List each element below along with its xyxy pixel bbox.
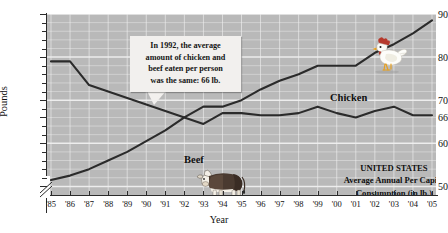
y-tick	[42, 40, 47, 41]
x-axis-line	[46, 195, 438, 196]
x-tick	[184, 191, 185, 195]
x-tick-label: '90	[141, 199, 151, 209]
x-tick	[89, 191, 90, 195]
y-tick	[42, 23, 47, 24]
x-tick-label: '86	[65, 199, 75, 209]
y-tick	[42, 49, 47, 50]
x-tick-label: '98	[294, 199, 304, 209]
x-tick	[432, 191, 433, 195]
x-tick-label: '89	[122, 199, 132, 209]
y-tick-label: 66	[404, 112, 448, 123]
x-axis-title: Year	[210, 214, 228, 225]
x-tick-label: '92	[179, 199, 189, 209]
x-tick	[108, 191, 109, 195]
y-tick	[42, 31, 47, 32]
x-tick	[203, 191, 204, 195]
y-tick	[42, 135, 47, 136]
y-tick	[40, 143, 47, 144]
chicken-illustration	[365, 34, 409, 74]
x-tick	[356, 191, 357, 195]
chart-figure: Chicken Beef UNITED STATES Average Annua…	[0, 0, 448, 233]
y-tick	[40, 117, 47, 118]
series-label-chicken: Chicken	[330, 92, 367, 103]
x-tick-label: '88	[103, 199, 113, 209]
x-tick	[261, 191, 262, 195]
y-tick	[42, 152, 47, 153]
x-tick	[375, 191, 376, 195]
y-tick	[40, 14, 47, 15]
callout-box: In 1992, the average amount of chicken a…	[130, 36, 241, 92]
x-tick-label: '96	[256, 199, 266, 209]
y-tick-label: 50	[404, 181, 448, 192]
x-tick-label: '00	[332, 199, 342, 209]
y-tick	[42, 66, 47, 67]
x-tick-label: '04	[408, 199, 418, 209]
series-label-beef: Beef	[184, 154, 204, 165]
callout-line-4: was the same: 66 lb.	[134, 75, 237, 87]
x-tick-label: '03	[389, 199, 399, 209]
y-tick	[42, 178, 47, 179]
callout-line-3: beef eaten per person	[134, 63, 237, 75]
x-tick	[242, 191, 243, 195]
x-tick	[70, 191, 71, 195]
plot-area: Chicken Beef UNITED STATES Average Annua…	[47, 14, 436, 195]
callout-line-1: In 1992, the average	[134, 40, 237, 52]
x-tick	[337, 191, 338, 195]
y-tick	[40, 57, 47, 58]
y-tick	[42, 83, 47, 84]
y-tick	[42, 169, 47, 170]
x-tick	[223, 191, 224, 195]
callout-pointer	[147, 91, 166, 105]
x-tick	[413, 191, 414, 195]
source-line-1: UNITED STATES	[319, 162, 436, 174]
y-axis-title: Pounds	[0, 86, 9, 117]
y-tick	[42, 92, 47, 93]
x-tick-label: '02	[370, 199, 380, 209]
x-tick	[394, 191, 395, 195]
x-tick-label: '91	[160, 199, 170, 209]
x-tick-label: '05	[427, 199, 437, 209]
y-tick	[42, 74, 47, 75]
x-tick-label: '95	[236, 199, 246, 209]
y-tick-label: 80	[404, 52, 448, 63]
x-tick-label: '87	[84, 199, 94, 209]
y-tick	[42, 161, 47, 162]
x-tick	[146, 191, 147, 195]
y-tick	[42, 109, 47, 110]
x-tick	[299, 191, 300, 195]
callout-line-2: amount of chicken and	[134, 52, 237, 64]
x-tick-label: '97	[275, 199, 285, 209]
x-tick-label: '94	[217, 199, 227, 209]
x-tick	[318, 191, 319, 195]
y-tick-label: 90	[404, 9, 448, 20]
y-tick	[42, 126, 47, 127]
y-tick	[40, 100, 47, 101]
x-tick-label: '93	[198, 199, 208, 209]
y-tick-label: 60	[404, 138, 448, 149]
x-tick	[280, 191, 281, 195]
x-tick-label: '01	[351, 199, 361, 209]
x-tick-label: '99	[313, 199, 323, 209]
y-tick-label: 70	[404, 95, 448, 106]
x-tick	[127, 191, 128, 195]
y-tick	[40, 186, 47, 187]
x-tick	[51, 191, 52, 195]
x-tick-label: '85	[46, 199, 56, 209]
x-tick	[165, 191, 166, 195]
